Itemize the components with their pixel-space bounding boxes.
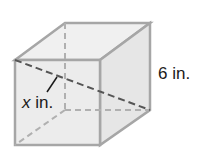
- edge-length-label: 6 in.: [158, 65, 190, 82]
- diagonal-variable: x: [22, 93, 31, 112]
- diagonal-unit: in.: [31, 93, 54, 112]
- diagonal-label: x in.: [22, 94, 53, 111]
